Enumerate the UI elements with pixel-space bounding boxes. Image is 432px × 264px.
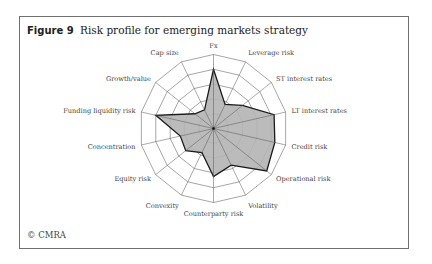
- axis-label: Equity risk: [114, 175, 152, 183]
- axis-label: Operational risk: [276, 175, 331, 183]
- center-dot: [212, 127, 215, 130]
- axis-label: Concentration: [88, 143, 137, 151]
- axis-label: Convexity: [146, 202, 179, 210]
- axis-label: Volatility: [247, 202, 278, 210]
- axis-label: Cap size: [151, 49, 179, 57]
- axis-label: Fx: [209, 42, 218, 50]
- axis-label: Credit risk: [291, 143, 328, 151]
- axis-label: Leverage risk: [248, 49, 295, 57]
- axis-label: ST interest rates: [276, 75, 333, 83]
- axis-label: Funding liquidity risk: [63, 107, 136, 115]
- radar-chart: FxLeverage riskST interest ratesLT inter…: [0, 0, 432, 264]
- axis-label: LT interest rates: [291, 107, 347, 115]
- axis-label: Counterparty risk: [184, 210, 245, 218]
- axis-label: Growth/value: [106, 75, 151, 83]
